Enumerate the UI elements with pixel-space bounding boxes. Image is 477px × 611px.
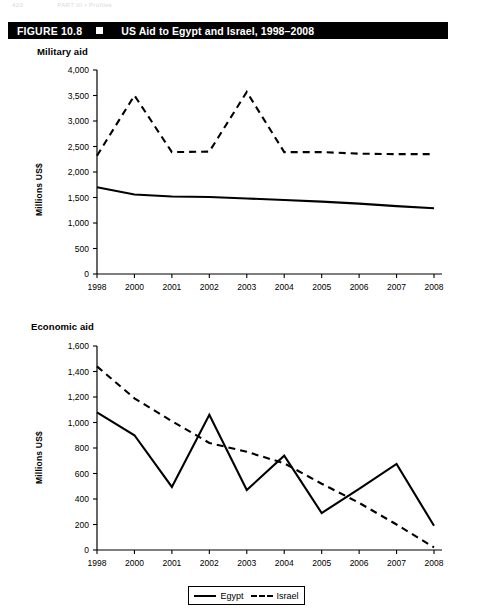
figure-number: FIGURE 10.8	[17, 25, 82, 37]
y-tick-label: 1,400	[68, 367, 90, 377]
running-head-page: 420	[12, 2, 23, 8]
x-tick-label: 2004	[275, 282, 294, 292]
y-tick-label: 2,500	[68, 142, 90, 152]
y-tick-label: 1,000	[68, 218, 90, 228]
y-tick-label: 0	[84, 545, 89, 555]
y-tick-label: 200	[75, 520, 89, 530]
x-tick-label: 2008	[425, 282, 444, 292]
x-tick-label: 2006	[350, 558, 369, 568]
x-tick-label: 2008	[425, 558, 444, 568]
y-tick-label: 3,000	[68, 116, 90, 126]
y-tick-label: 1,200	[68, 392, 90, 402]
legend-dashed-line-icon	[251, 595, 273, 597]
y-tick-label: 400	[75, 494, 89, 504]
x-tick-label: 2005	[312, 558, 331, 568]
legend-item-egypt: Egypt	[194, 591, 243, 601]
y-tick-label: 1,000	[68, 418, 90, 428]
y-tick-label: 600	[75, 469, 89, 479]
y-axis-label: Millions US$	[34, 431, 44, 484]
x-tick-label: 2002	[200, 558, 219, 568]
series-line-israel	[97, 92, 434, 156]
x-tick-label: 2001	[162, 558, 181, 568]
x-tick-label: 2000	[125, 282, 144, 292]
legend-solid-line-icon	[194, 595, 216, 597]
x-tick-label: 2001	[162, 282, 181, 292]
figure-caption-bar: FIGURE 10.8 US Aid to Egypt and Israel, …	[8, 22, 448, 39]
legend-label-egypt: Egypt	[220, 591, 243, 601]
legend-item-israel: Israel	[251, 591, 299, 601]
x-tick-label: 2002	[200, 282, 219, 292]
series-line-egypt	[97, 412, 434, 525]
running-head-text: PART III • Profiles	[57, 2, 112, 8]
x-tick-label: 2003	[237, 282, 256, 292]
x-tick-label: 2004	[275, 558, 294, 568]
y-tick-label: 0	[84, 269, 89, 279]
x-tick-label: 2000	[125, 558, 144, 568]
x-tick-label: 2006	[350, 282, 369, 292]
economic-aid-panel-title: Economic aid	[31, 321, 94, 332]
legend-label-israel: Israel	[277, 591, 299, 601]
military-aid-chart: 05001,0001,5002,0002,5003,0003,5004,0001…	[0, 56, 477, 301]
y-tick-label: 1,600	[68, 341, 90, 351]
y-tick-label: 1,500	[68, 193, 90, 203]
running-head: 420PART III • Profiles	[12, 2, 112, 8]
x-tick-label: 1998	[88, 282, 107, 292]
y-tick-label: 3,500	[68, 91, 90, 101]
x-tick-label: 2007	[387, 282, 406, 292]
y-axis-label: Millions US$	[34, 163, 44, 216]
series-line-israel	[97, 366, 434, 547]
y-tick-label: 800	[75, 443, 89, 453]
series-line-egypt	[97, 187, 434, 208]
x-tick-label: 1998	[88, 558, 107, 568]
y-tick-label: 4,000	[68, 65, 90, 75]
x-tick-label: 2007	[387, 558, 406, 568]
black-square-bullet-icon	[96, 27, 103, 34]
x-tick-label: 2003	[237, 558, 256, 568]
y-tick-label: 500	[75, 244, 89, 254]
y-tick-label: 2,000	[68, 167, 90, 177]
figure-title: US Aid to Egypt and Israel, 1998–2008	[121, 25, 314, 37]
x-tick-label: 2005	[312, 282, 331, 292]
economic-aid-chart: 02004006008001,0001,2001,4001,6001998200…	[0, 332, 477, 577]
chart-legend: Egypt Israel	[188, 586, 305, 605]
